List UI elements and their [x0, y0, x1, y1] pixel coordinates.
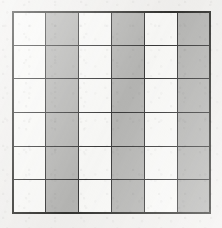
grid-cell-white: [145, 12, 178, 46]
grid-cell-gray: [46, 12, 79, 46]
grid-cell-gray: [112, 112, 145, 146]
grid-cell-white: [79, 146, 112, 180]
grid-row: [13, 180, 211, 214]
grid-cell-white: [79, 45, 112, 79]
grid-row: [13, 45, 211, 79]
grid-cell-white: [13, 79, 46, 113]
grid-cell-white: [13, 112, 46, 146]
grid-cell-gray: [112, 79, 145, 113]
grid-cell-gray: [46, 180, 79, 214]
grid-cell-white: [13, 45, 46, 79]
grid-cell-white: [13, 146, 46, 180]
shaded-grid-figure: [12, 11, 211, 214]
grid-row: [13, 146, 211, 180]
grid-cell-gray: [178, 12, 211, 46]
grid-cell-white: [145, 180, 178, 214]
grid-cell-white: [145, 146, 178, 180]
grid-cell-gray: [46, 79, 79, 113]
grid-cell-gray: [46, 45, 79, 79]
grid-cell-gray: [178, 79, 211, 113]
grid-cell-white: [79, 180, 112, 214]
grid-row: [13, 112, 211, 146]
grid-row: [13, 79, 211, 113]
grid-cell-gray: [46, 112, 79, 146]
grid-table: [12, 11, 211, 214]
grid-body: [13, 12, 211, 214]
grid-cell-white: [145, 112, 178, 146]
grid-cell-white: [145, 45, 178, 79]
grid-cell-white: [79, 12, 112, 46]
grid-cell-white: [79, 112, 112, 146]
grid-cell-white: [145, 79, 178, 113]
grid-cell-white: [13, 12, 46, 46]
grid-cell-gray: [178, 45, 211, 79]
grid-cell-gray: [178, 112, 211, 146]
grid-cell-gray: [112, 180, 145, 214]
grid-cell-gray: [112, 12, 145, 46]
grid-cell-gray: [112, 45, 145, 79]
grid-cell-white: [13, 180, 46, 214]
grid-row: [13, 12, 211, 46]
grid-cell-white: [79, 79, 112, 113]
grid-cell-gray: [178, 146, 211, 180]
grid-cell-gray: [46, 146, 79, 180]
grid-cell-gray: [112, 146, 145, 180]
grid-cell-gray: [178, 180, 211, 214]
